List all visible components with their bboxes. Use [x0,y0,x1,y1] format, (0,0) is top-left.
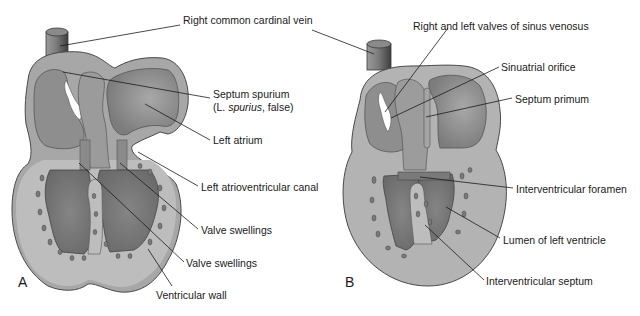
leader-right-common-cardinal-vein-a [60,25,180,46]
label-septum-spurium-note-prefix: (L. [213,101,228,113]
heart-a [12,28,188,292]
panel-letter-a: A [18,274,27,290]
label-left-atrium: Left atrium [213,134,263,146]
panel-letter-b: B [345,274,354,290]
label-valve-swellings-upper: Valve swellings [201,224,272,236]
embryonic-heart-figure: Right common cardinal vein Septum spuriu… [0,0,640,316]
left-atrium-a [107,68,179,134]
label-septum-spurium-note-italic: spurius [228,101,262,113]
label-septum-spurium: Septum spurium [213,88,289,100]
label-right-common-cardinal-vein: Right common cardinal vein [183,14,313,26]
label-sinuatrial-orifice: Sinuatrial orifice [501,61,576,73]
label-left-atrioventricular-canal: Left atrioventricular canal [201,181,318,193]
septum-primum-fold-b [424,88,430,148]
interventricular-foramen-b [398,172,450,180]
label-ventricular-wall: Ventricular wall [156,289,227,301]
label-lumen-of-left-ventricle: Lumen of left ventricle [503,234,606,246]
label-septum-spurium-note-suffix: , false) [262,101,294,113]
leader-right-common-cardinal-vein-b [312,30,374,54]
label-interventricular-septum: Interventricular septum [486,275,593,287]
heart-b [343,40,506,286]
label-valves-of-sinus-venosus: Right and left valves of sinus venosus [413,20,589,32]
label-interventricular-foramen: Interventricular foramen [516,183,627,195]
right-common-cardinal-vein-b [367,40,391,70]
label-septum-primum: Septum primum [515,93,589,105]
label-valve-swellings-lower: Valve swellings [186,257,257,269]
heart-diagram-svg [0,0,640,316]
label-septum-spurium-note: (L. spurius, false) [213,101,294,113]
left-av-canal-a [117,140,127,170]
